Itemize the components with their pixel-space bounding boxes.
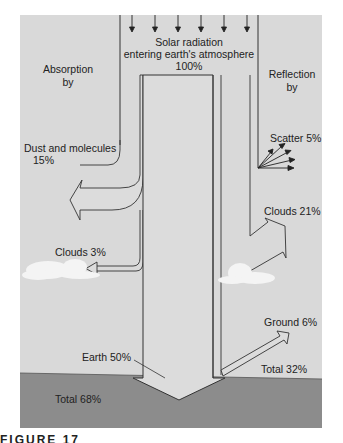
figure-caption: FIGURE 17 [0, 432, 80, 443]
clouds-reflection-label: Clouds 21% [264, 205, 321, 217]
absorption-total-label: Total 68% [55, 393, 101, 405]
dust-label: Dust and molecules [24, 142, 116, 154]
reflection-total-label: Total 32% [261, 363, 307, 375]
incoming-label-line2: entering earth's atmosphere [124, 48, 255, 60]
reflection-header-line2: by [286, 81, 298, 93]
absorption-header-line2: by [62, 76, 74, 88]
dust-percent: 15% [33, 154, 54, 166]
scatter-label: Scatter 5% [270, 132, 321, 144]
absorption-header-line1: Absorption [43, 63, 93, 75]
incoming-label-line1: Solar radiation [155, 36, 223, 48]
reflection-header-line1: Reflection [269, 68, 316, 80]
ground-reflection-label: Ground 6% [264, 316, 317, 328]
earth-absorption-arrow [133, 75, 225, 400]
clouds-absorption-label: Clouds 3% [55, 246, 106, 258]
solar-radiation-diagram: Solar radiation entering earth's atmosph… [0, 0, 343, 443]
earth-absorption-label: Earth 50% [82, 351, 131, 363]
incoming-label-percent: 100% [176, 60, 203, 72]
